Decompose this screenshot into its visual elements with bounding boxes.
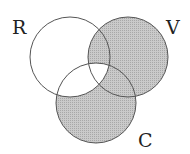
venn-svg: R V C <box>0 0 190 154</box>
label-v: V <box>165 16 180 38</box>
label-c: C <box>138 129 153 151</box>
venn-diagram: R V C <box>0 0 190 154</box>
label-r: R <box>12 16 27 38</box>
